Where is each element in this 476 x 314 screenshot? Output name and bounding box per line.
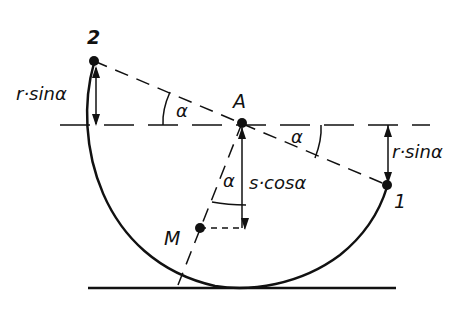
point-A [237, 118, 247, 128]
label-angle-left: α [176, 100, 188, 121]
point-M [195, 223, 205, 233]
arrowhead-up-icon [384, 125, 392, 137]
label-point-M: M [164, 227, 180, 249]
arrowhead-down-icon [92, 114, 100, 126]
label-point-A: A [231, 90, 246, 112]
angle-arc-left [163, 92, 170, 125]
label-vertical-distance: s·cosα [249, 172, 306, 193]
label-left-distance: r·sinα [16, 83, 67, 104]
point-1 [382, 180, 392, 190]
label-point-1: 1 [394, 190, 406, 212]
label-angle-right: α [291, 126, 303, 147]
angle-arc-right [315, 125, 321, 158]
label-point-2: 2 [87, 26, 100, 48]
diagram-canvas: 2 A 1 M r·sinα r·sinα s·cosα α α α [0, 0, 476, 314]
label-right-distance: r·sinα [392, 141, 443, 162]
angle-arc-bottom [212, 202, 246, 205]
label-angle-bottom: α [223, 170, 235, 191]
point-2 [89, 56, 99, 66]
